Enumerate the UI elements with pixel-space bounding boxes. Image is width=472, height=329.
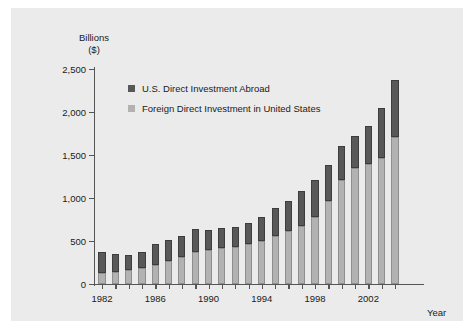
x-tick-mark xyxy=(142,284,143,289)
x-tick-mark xyxy=(262,284,263,289)
y-tick-label: 1,000 xyxy=(62,193,86,204)
x-axis-title: Year xyxy=(427,307,446,318)
bar-segment-us-investment-abroad xyxy=(112,254,119,272)
bar-group xyxy=(338,69,345,284)
y-tick-label: 1,500 xyxy=(62,150,86,161)
bar-segment-foreign-investment xyxy=(138,268,145,284)
x-axis-line xyxy=(94,284,424,285)
bar-segment-us-investment-abroad xyxy=(152,244,159,265)
bar-segment-us-investment-abroad xyxy=(165,240,172,262)
bar-group xyxy=(112,69,119,284)
bar-segment-foreign-investment xyxy=(391,137,398,284)
x-tick-mark xyxy=(155,284,156,289)
bar-segment-foreign-investment xyxy=(245,244,252,284)
bar-segment-foreign-investment xyxy=(192,252,199,284)
x-tick-mark xyxy=(368,284,369,289)
legend-swatch-icon xyxy=(128,105,135,112)
chart-panel: Billions ($) Year 05001,0001,5002,0002,5… xyxy=(11,8,463,321)
bar-segment-us-investment-abroad xyxy=(258,217,265,241)
bar-segment-foreign-investment xyxy=(218,248,225,284)
bar-segment-foreign-investment xyxy=(98,273,105,284)
bar-group xyxy=(365,69,372,284)
bar-segment-us-investment-abroad xyxy=(98,252,105,273)
y-tick-label: 2,500 xyxy=(62,64,86,75)
x-tick-mark xyxy=(222,284,223,289)
y-tick-label: 500 xyxy=(70,236,86,247)
bar-segment-foreign-investment xyxy=(205,250,212,284)
bar-segment-foreign-investment xyxy=(311,217,318,284)
x-tick-mark xyxy=(169,284,170,289)
bar-segment-foreign-investment xyxy=(272,236,279,284)
x-tick-mark xyxy=(275,284,276,289)
chart-legend: U.S. Direct Investment Abroad Foreign Di… xyxy=(128,83,320,123)
bar-segment-us-investment-abroad xyxy=(232,227,239,247)
bar-group xyxy=(391,69,398,284)
bar-segment-us-investment-abroad xyxy=(391,80,398,137)
y-tick-mark xyxy=(89,284,94,285)
x-tick-mark xyxy=(129,284,130,289)
x-tick-mark xyxy=(249,284,250,289)
bar-segment-us-investment-abroad xyxy=(298,191,305,225)
bar-group xyxy=(351,69,358,284)
y-tick-mark xyxy=(89,198,94,199)
bar-segment-us-investment-abroad xyxy=(125,255,132,270)
bar-segment-us-investment-abroad xyxy=(351,136,358,169)
bar-segment-us-investment-abroad xyxy=(338,146,345,179)
x-tick-mark xyxy=(115,284,116,289)
bar-segment-foreign-investment xyxy=(165,261,172,284)
legend-item: Foreign Direct Investment in United Stat… xyxy=(128,103,320,114)
x-tick-label: 1982 xyxy=(91,293,112,304)
legend-item: U.S. Direct Investment Abroad xyxy=(128,83,320,94)
x-tick-mark xyxy=(315,284,316,289)
bar-segment-us-investment-abroad xyxy=(245,223,252,244)
bar-segment-foreign-investment xyxy=(152,265,159,284)
bar-group xyxy=(98,69,105,284)
x-tick-label: 1986 xyxy=(145,293,166,304)
legend-swatch-icon xyxy=(128,85,135,92)
x-tick-mark xyxy=(328,284,329,289)
chart-figure: Billions ($) Year 05001,0001,5002,0002,5… xyxy=(0,0,472,329)
y-tick-mark xyxy=(89,69,94,70)
bar-group xyxy=(378,69,385,284)
x-tick-label: 2002 xyxy=(358,293,379,304)
y-axis-title: Billions ($) xyxy=(57,32,131,55)
bar-segment-us-investment-abroad xyxy=(178,236,185,257)
bar-segment-foreign-investment xyxy=(112,272,119,284)
bar-segment-us-investment-abroad xyxy=(192,229,199,251)
x-tick-mark xyxy=(102,284,103,289)
x-tick-mark xyxy=(342,284,343,289)
x-tick-mark xyxy=(395,284,396,289)
legend-item-label: Foreign Direct Investment in United Stat… xyxy=(142,103,320,114)
x-tick-mark xyxy=(355,284,356,289)
y-tick-label: 2,000 xyxy=(62,107,86,118)
bar-segment-foreign-investment xyxy=(365,164,372,284)
bar-segment-us-investment-abroad xyxy=(325,165,332,201)
bar-segment-us-investment-abroad xyxy=(138,252,145,268)
bar-segment-foreign-investment xyxy=(125,270,132,284)
bar-segment-us-investment-abroad xyxy=(378,108,385,157)
bar-segment-us-investment-abroad xyxy=(272,208,279,236)
x-tick-label: 1994 xyxy=(251,293,272,304)
x-tick-mark xyxy=(302,284,303,289)
bar-segment-foreign-investment xyxy=(258,241,265,284)
y-tick-mark xyxy=(89,155,94,156)
y-tick-mark xyxy=(89,112,94,113)
y-tick-label: 0 xyxy=(81,279,86,290)
bar-segment-foreign-investment xyxy=(378,158,385,284)
bar-segment-us-investment-abroad xyxy=(218,228,225,248)
x-tick-mark xyxy=(195,284,196,289)
x-tick-mark xyxy=(182,284,183,289)
y-tick-mark xyxy=(89,241,94,242)
bar-segment-foreign-investment xyxy=(178,257,185,284)
x-tick-label: 1998 xyxy=(305,293,326,304)
bar-segment-foreign-investment xyxy=(351,168,358,284)
bar-segment-us-investment-abroad xyxy=(205,230,212,250)
x-tick-mark xyxy=(209,284,210,289)
bar-segment-foreign-investment xyxy=(285,231,292,284)
bar-group xyxy=(325,69,332,284)
legend-item-label: U.S. Direct Investment Abroad xyxy=(142,83,270,94)
bar-segment-foreign-investment xyxy=(338,180,345,284)
bar-segment-us-investment-abroad xyxy=(311,180,318,217)
bar-segment-foreign-investment xyxy=(232,247,239,284)
bar-segment-foreign-investment xyxy=(298,226,305,284)
